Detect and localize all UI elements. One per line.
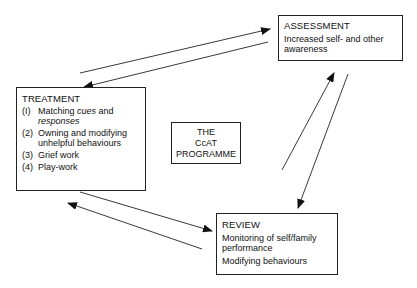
item-text: Grief work [38,150,79,160]
item-number: (3) [22,150,38,160]
treatment-item: (4) Play-work [22,162,140,172]
item-number: (4) [22,162,38,172]
arrow-assessment-to-treatment [84,42,268,87]
item-text: Play-work [38,162,78,172]
review-body-line: Monitoring of self/family [222,233,332,243]
item-text: Matching cues and responses [38,106,114,126]
ccat-programme-box: THE CcAT PROGRAMME [171,122,241,164]
item-number: (2) [22,128,38,148]
assessment-box: ASSESSMENT Increased self- and other awa… [278,15,403,61]
arrow-treatment-to-assessment [80,29,270,73]
review-body-line: performance [222,243,332,253]
review-box: REVIEW Monitoring of self/family perform… [216,213,338,275]
arrow-review-to-treatment [68,203,202,249]
center-label-line: CcAT [174,138,238,149]
item-text: Owning and modifying unhelpful behaviour… [38,128,127,148]
center-label-line: PROGRAMME [174,149,238,160]
review-body-line: Modifying behaviours [222,256,332,266]
review-title: REVIEW [222,219,332,230]
treatment-box: TREATMENT (I) Matching cues and response… [16,87,146,191]
assessment-title: ASSESSMENT [284,20,397,31]
treatment-item: (I) Matching cues and responses [22,106,140,126]
arrow-treatment-to-review [80,192,212,231]
assessment-body-line: awareness [284,44,397,54]
treatment-item: (3) Grief work [22,150,140,160]
assessment-body-line: Increased self- and other [284,34,397,44]
center-label-line: THE [174,127,238,138]
arrow-review-to-assessment [282,73,334,170]
item-number: (I) [22,106,38,126]
treatment-item: (2) Owning and modifying unhelpful behav… [22,128,140,148]
treatment-title: TREATMENT [22,93,140,104]
